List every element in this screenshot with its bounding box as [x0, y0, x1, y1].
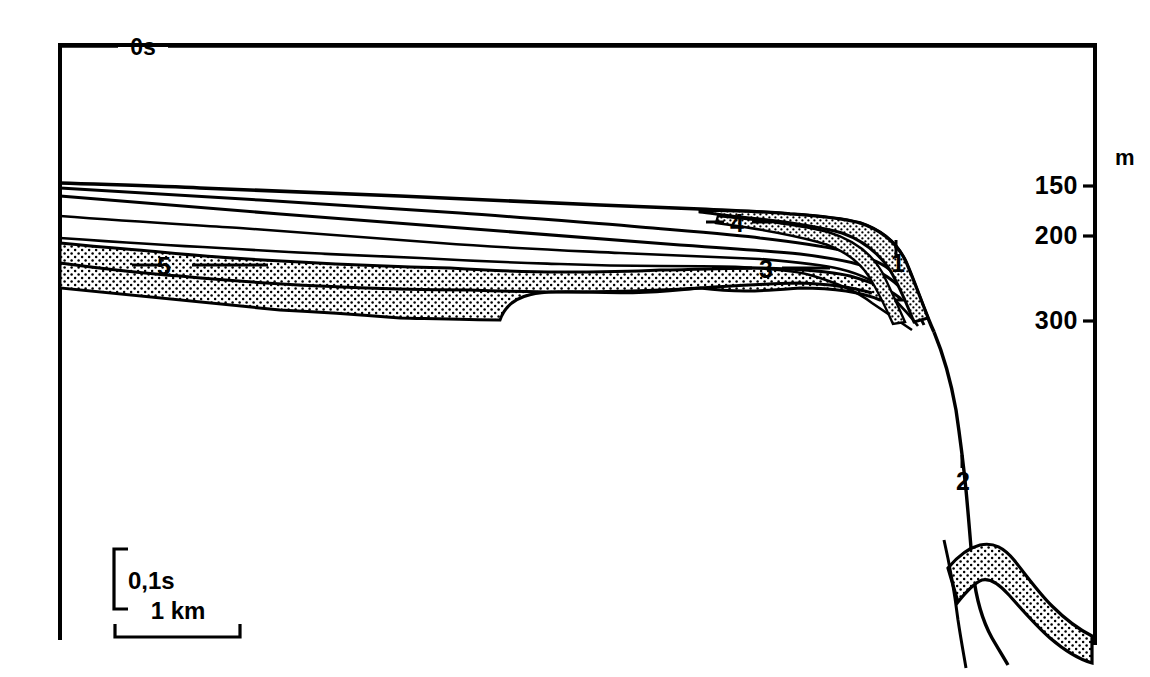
horizon-label-3: 3 [759, 255, 773, 283]
horizon-label-5: 5 [157, 252, 171, 280]
seismic-profile-figure: 5 3 4 1 2 0s m 150 200 300 0,1s 1 km [0, 0, 1150, 677]
horizon-label-2: 2 [956, 467, 970, 495]
depth-label-300: 300 [1035, 306, 1078, 334]
horizontal-scale-label: 1 km [151, 597, 206, 624]
slope-escarpment [934, 332, 1008, 665]
depth-unit-label: m [1115, 145, 1135, 170]
vertical-scale-label: 0,1s [128, 567, 175, 594]
horizon-label-1: 1 [891, 249, 905, 277]
depth-label-200: 200 [1035, 221, 1078, 249]
vertical-scale-bar [114, 549, 128, 609]
horizon-label-4: 4 [730, 209, 744, 237]
time-zero-label: 0s [130, 34, 156, 60]
stipple-unit-5 [60, 243, 902, 320]
horizontal-scale-bar [115, 624, 240, 637]
stipple-lower-lens [944, 540, 1092, 668]
seismic-profile-canvas: 5 3 4 1 2 0s m 150 200 300 0,1s 1 km [0, 0, 1150, 677]
depth-label-150: 150 [1035, 171, 1078, 199]
